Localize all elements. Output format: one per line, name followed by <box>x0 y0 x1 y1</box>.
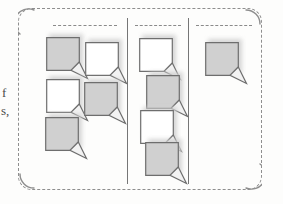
sticky-note-body <box>139 38 173 72</box>
sticky-note-body <box>85 42 119 76</box>
column-header-rule-2 <box>135 25 181 26</box>
column-header-rule-1 <box>53 25 117 26</box>
sticky-note-body <box>146 75 180 109</box>
margin-text-fragment-1: f <box>2 86 6 99</box>
sticky-note-sheet <box>46 118 79 151</box>
sticky-note-sheet <box>47 38 80 71</box>
sticky-note-sheet <box>86 43 119 76</box>
sticky-note-sheet <box>146 143 179 176</box>
sticky-note-sheet <box>206 43 239 76</box>
sticky-note-1-5[interactable] <box>45 117 79 151</box>
column-header-rule-3 <box>196 25 252 26</box>
sticky-note-1-1[interactable] <box>46 37 80 71</box>
column-divider-2 <box>188 18 189 184</box>
sticky-note-2-4[interactable] <box>145 142 179 176</box>
sticky-note-sheet <box>147 76 180 109</box>
sticky-note-1-3[interactable] <box>46 79 80 113</box>
sticky-note-body <box>46 79 80 113</box>
sticky-note-1-4[interactable] <box>84 82 118 116</box>
sticky-note-3-1[interactable] <box>205 42 239 76</box>
sticky-note-sheet <box>85 83 118 116</box>
sticky-note-body <box>45 117 79 151</box>
sticky-note-2-1[interactable] <box>139 38 173 72</box>
sticky-note-body <box>46 37 80 71</box>
sticky-note-sheet <box>47 80 80 113</box>
sticky-note-body <box>205 42 239 76</box>
sticky-note-2-2[interactable] <box>146 75 180 109</box>
sticky-note-1-2[interactable] <box>85 42 119 76</box>
sticky-note-body <box>145 142 179 176</box>
column-divider-1 <box>127 18 128 184</box>
sticky-note-sheet <box>140 39 173 72</box>
sticky-note-body <box>84 82 118 116</box>
margin-text-fragment-2: s, <box>1 104 9 117</box>
figure-sticky-note-board: f s, <box>0 0 283 204</box>
